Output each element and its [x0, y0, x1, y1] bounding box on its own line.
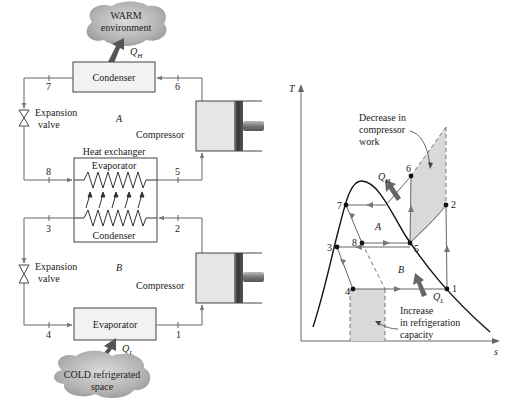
schematic-point-5: 5 — [175, 166, 180, 177]
annotation-decrease-line1: Decrease in — [359, 112, 406, 123]
annotation-increase-line1: Increase — [400, 305, 434, 316]
cold-space-cloud: COLD refrigerated space — [54, 351, 150, 398]
shade-increased-capacity — [350, 289, 385, 341]
schematic-point-6: 6 — [175, 81, 180, 92]
annotation-decrease-line3: work — [359, 136, 380, 147]
ts-region-b: B — [398, 264, 404, 275]
expansion-valve-lower-line2: valve — [38, 273, 60, 284]
ts-qh-label: QH — [378, 171, 391, 185]
schematic-point-4: 4 — [46, 329, 51, 340]
schematic-cycle-b-label: B — [116, 262, 122, 273]
annotation-decrease-line2: compressor — [359, 124, 406, 135]
annotation-increase-line2: in refrigeration — [400, 317, 460, 328]
heat-exchanger-condenser-label: Condenser — [93, 230, 136, 241]
cascade-refrigeration-figure: WARM environment QH Condenser 7 6 Expans… — [0, 0, 512, 415]
compressor-upper-icon — [196, 101, 264, 151]
compressor-lower-icon — [196, 253, 264, 303]
schematic-point-8: 8 — [46, 166, 51, 177]
ts-point-7: 7 — [337, 200, 342, 211]
heat-exchanger-evaporator-label: Evaporator — [92, 160, 137, 171]
ts-point-6: 6 — [406, 163, 411, 174]
schematic-point-1: 1 — [176, 329, 181, 340]
expansion-valve-upper-line2: valve — [38, 119, 60, 130]
ts-point-5: 5 — [414, 243, 419, 254]
schematic-point-7: 7 — [46, 81, 51, 92]
ts-point-2: 2 — [451, 199, 456, 210]
ts-point-1: 1 — [452, 283, 457, 294]
schematic-point-3: 3 — [46, 223, 51, 234]
schematic: WARM environment QH Condenser 7 6 Expans… — [19, 2, 264, 399]
ts-axis-t-label: T — [289, 83, 296, 94]
evaporator-bottom-label: Evaporator — [93, 319, 138, 330]
condenser-top-label: Condenser — [93, 72, 136, 83]
warm-environment-cloud: WARM environment — [87, 2, 167, 47]
expansion-valve-lower-icon — [19, 265, 29, 283]
ts-region-a: A — [374, 221, 382, 232]
schematic-cycle-a-label: A — [115, 113, 123, 124]
ts-diagram: T s — [289, 83, 500, 357]
cold-cloud-line1: COLD refrigerated — [64, 369, 140, 380]
heat-exchanger-title: Heat exchanger — [83, 146, 146, 157]
schematic-point-2: 2 — [175, 223, 180, 234]
cold-cloud-line2: space — [91, 381, 114, 392]
warm-cloud-line1: WARM — [110, 10, 141, 21]
schematic-qh-label: QH — [130, 46, 143, 60]
ts-point-4: 4 — [345, 286, 350, 297]
expansion-valve-upper-icon — [19, 110, 29, 126]
compressor-lower-label: Compressor — [136, 280, 185, 291]
expansion-valve-lower-line1: Expansion — [35, 261, 77, 272]
expansion-valve-upper-line1: Expansion — [35, 107, 77, 118]
compressor-upper-label: Compressor — [136, 129, 185, 140]
ts-heat-in-arrow-icon — [413, 273, 427, 297]
annotation-increase-line3: capacity — [400, 329, 433, 340]
ts-point-8: 8 — [352, 237, 357, 248]
ts-point-3: 3 — [327, 242, 332, 253]
ts-ql-label: QL — [433, 291, 444, 305]
ts-axis-s-label: s — [494, 346, 498, 357]
warm-cloud-line2: environment — [101, 22, 152, 33]
